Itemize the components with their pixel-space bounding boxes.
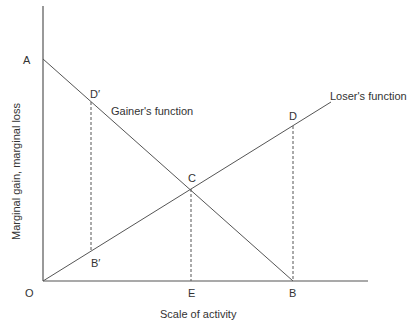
- loser-function-line: [43, 102, 331, 281]
- diagram-canvas: A D′ C D B′ O E B Gainer's function Lose…: [0, 0, 408, 328]
- point-label-b: B: [289, 287, 296, 299]
- loser-function-label: Loser's function: [330, 90, 407, 102]
- point-label-e: E: [188, 287, 195, 299]
- point-label-c: C: [188, 172, 196, 184]
- point-label-b-prime: B′: [91, 257, 100, 269]
- point-label-a: A: [23, 54, 31, 66]
- gainer-function-line: [43, 59, 293, 281]
- point-label-d-prime: D′: [90, 88, 100, 100]
- x-axis-label: Scale of activity: [160, 308, 237, 320]
- gainer-function-label: Gainer's function: [111, 105, 193, 117]
- point-label-d: D: [289, 110, 297, 122]
- origin-label: O: [25, 287, 34, 299]
- y-axis-label: Marginal gain, marginal loss: [10, 103, 22, 240]
